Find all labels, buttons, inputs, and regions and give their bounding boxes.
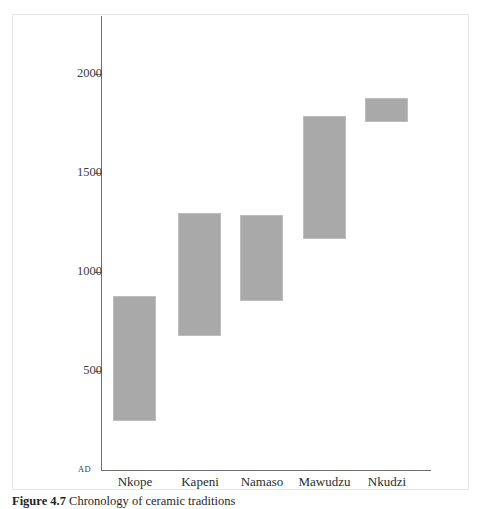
x-label-mawudzu: Mawudzu [290, 474, 359, 489]
y-tick-2000: 2000 [0, 74, 102, 75]
axis-origin-label: AD [78, 464, 91, 474]
figure-caption-label: Figure 4.7 [12, 494, 66, 508]
bar-nkudzi [365, 98, 408, 122]
figure-caption: Figure 4.7 Chronology of ceramic traditi… [12, 494, 472, 509]
x-label-nkope: Nkope [104, 474, 166, 489]
y-tick-label-1500: 1500 [38, 166, 102, 178]
bar-namaso [240, 215, 283, 301]
x-label-namaso: Namaso [230, 474, 294, 489]
bar-mawudzu [303, 116, 346, 239]
y-tick-500: 500 [0, 371, 102, 372]
y-tick-label-1000: 1000 [38, 265, 102, 277]
y-tick-1000: 1000 [0, 272, 102, 273]
bar-nkope [113, 296, 156, 421]
figure-caption-text: Chronology of ceramic traditions [69, 494, 235, 508]
y-tick-label-500: 500 [38, 364, 102, 376]
x-label-nkudzi: Nkudzi [356, 474, 418, 489]
x-axis-line [101, 470, 431, 471]
x-label-kapeni: Kapeni [168, 474, 232, 489]
y-axis-line [101, 16, 102, 471]
y-tick-1500: 1500 [0, 173, 102, 174]
bar-kapeni [178, 213, 221, 336]
y-tick-label-2000: 2000 [38, 67, 102, 79]
